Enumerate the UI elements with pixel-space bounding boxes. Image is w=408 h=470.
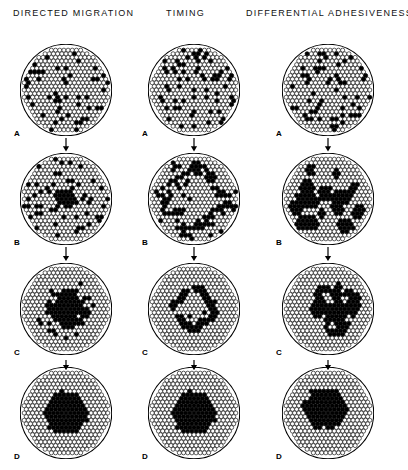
panel-label-a: A bbox=[142, 129, 148, 138]
aggregate-diagram bbox=[148, 367, 240, 459]
light-cells bbox=[284, 48, 372, 132]
arrow-c-to-d-directed-migration bbox=[60, 356, 72, 366]
panel-directed-migration-d: D bbox=[20, 367, 112, 459]
panel-label-a: A bbox=[14, 129, 20, 138]
panel-label-c: C bbox=[276, 348, 282, 357]
down-arrow-icon bbox=[60, 138, 72, 151]
aggregate-diagram bbox=[20, 263, 112, 355]
arrow-b-to-c-timing bbox=[188, 247, 200, 261]
panel-label-a: A bbox=[276, 129, 282, 138]
down-arrow-icon bbox=[188, 247, 200, 261]
column-header-differential-adhesiveness: DIFFERENTIAL ADHESIVENESS bbox=[246, 8, 408, 18]
panel-label-d: D bbox=[276, 452, 282, 461]
panel-differential-adhesiveness-c: C bbox=[282, 263, 374, 355]
panel-directed-migration-c: C bbox=[20, 263, 112, 355]
down-arrow-icon bbox=[322, 247, 334, 261]
arrow-c-to-d-timing bbox=[188, 356, 200, 366]
panel-label-b: B bbox=[276, 238, 282, 247]
panel-timing-a: A bbox=[148, 44, 240, 136]
figure-root: DIRECTED MIGRATIONTIMINGDIFFERENTIAL ADH… bbox=[0, 0, 408, 470]
aggregate-diagram bbox=[148, 44, 240, 136]
aggregate-diagram bbox=[20, 367, 112, 459]
panel-label-c: C bbox=[142, 348, 148, 357]
panel-timing-c: C bbox=[148, 263, 240, 355]
down-arrow-icon bbox=[60, 360, 72, 370]
light-cells bbox=[22, 48, 110, 132]
aggregate-diagram bbox=[20, 153, 112, 245]
panel-label-d: D bbox=[14, 452, 20, 461]
column-header-directed-migration: DIRECTED MIGRATION bbox=[13, 8, 134, 18]
aggregate-diagram bbox=[282, 153, 374, 245]
arrow-b-to-c-differential-adhesiveness bbox=[322, 247, 334, 261]
down-arrow-icon bbox=[322, 360, 334, 370]
arrow-a-to-b-timing bbox=[188, 138, 200, 151]
panel-directed-migration-a: A bbox=[20, 44, 112, 136]
panel-label-d: D bbox=[142, 452, 148, 461]
panel-directed-migration-b: B bbox=[20, 153, 112, 245]
column-header-timing: TIMING bbox=[166, 8, 205, 18]
aggregate-diagram bbox=[148, 153, 240, 245]
panel-timing-b: B bbox=[148, 153, 240, 245]
arrow-a-to-b-directed-migration bbox=[60, 138, 72, 151]
light-cells bbox=[150, 267, 238, 351]
panel-differential-adhesiveness-a: A bbox=[282, 44, 374, 136]
panel-timing-d: D bbox=[148, 367, 240, 459]
aggregate-diagram bbox=[20, 44, 112, 136]
aggregate-diagram bbox=[282, 263, 374, 355]
panel-label-b: B bbox=[14, 238, 20, 247]
aggregate-diagram bbox=[282, 367, 374, 459]
arrow-b-to-c-directed-migration bbox=[60, 247, 72, 261]
panel-label-b: B bbox=[142, 238, 148, 247]
down-arrow-icon bbox=[322, 138, 334, 151]
down-arrow-icon bbox=[60, 247, 72, 261]
aggregate-diagram bbox=[148, 263, 240, 355]
down-arrow-icon bbox=[188, 138, 200, 151]
down-arrow-icon bbox=[188, 360, 200, 370]
panel-differential-adhesiveness-d: D bbox=[282, 367, 374, 459]
panel-differential-adhesiveness-b: B bbox=[282, 153, 374, 245]
arrow-a-to-b-differential-adhesiveness bbox=[322, 138, 334, 151]
aggregate-diagram bbox=[282, 44, 374, 136]
panel-label-c: C bbox=[14, 348, 20, 357]
arrow-c-to-d-differential-adhesiveness bbox=[322, 356, 334, 366]
